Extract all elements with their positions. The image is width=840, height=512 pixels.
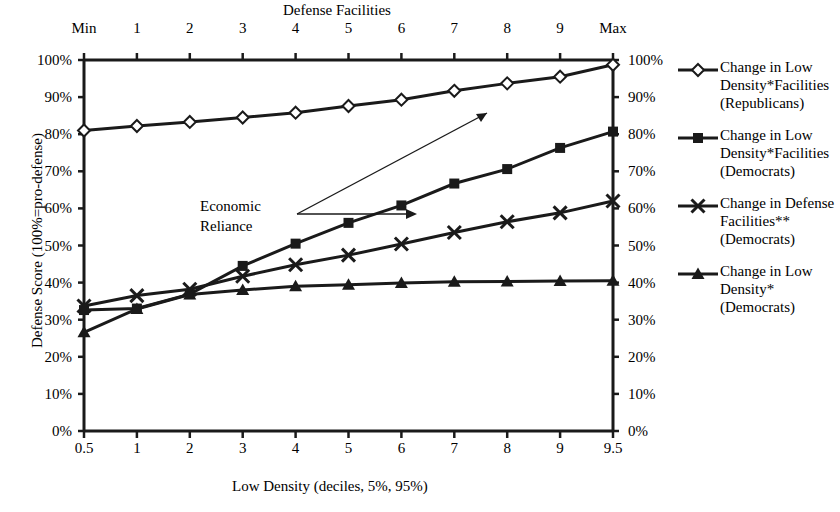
legend-entry-0[interactable]: Change in LowDensity*Facilities(Republic… <box>676 58 840 112</box>
series-3 <box>78 274 620 337</box>
series-2 <box>78 194 620 312</box>
legend-label-3-line1: Change in Low <box>720 262 840 280</box>
legend-label-2: Change in DefenseFacilities**(Democrats) <box>720 194 840 248</box>
legend-label-0-line2: Density*Facilities <box>720 76 840 94</box>
annotation-economic-reliance: Economic Reliance <box>200 196 261 236</box>
legend-label-2-line3: (Democrats) <box>720 230 840 248</box>
legend-marker-square-filled-icon <box>676 130 720 144</box>
series-0 <box>78 59 619 137</box>
legend-marker-x-cross-icon <box>676 198 720 212</box>
legend-label-3-line2: Density* <box>720 280 840 298</box>
legend-entry-2[interactable]: Change in DefenseFacilities**(Democrats) <box>676 194 840 248</box>
legend-label-3-line3: (Democrats) <box>720 298 840 316</box>
legend: Change in LowDensity*Facilities(Republic… <box>676 58 840 330</box>
chart-figure: Defense Facilities Low Density (deciles,… <box>0 0 840 512</box>
legend-label-2-line2: Facilities** <box>720 212 840 230</box>
legend-label-2-line1: Change in Defense <box>720 194 840 212</box>
legend-marker-diamond-open-icon <box>676 62 720 76</box>
legend-marker-triangle-filled-icon <box>676 266 720 280</box>
annotation-line-2: Reliance <box>200 216 261 236</box>
legend-label-1-line1: Change in Low <box>720 126 840 144</box>
legend-label-3: Change in LowDensity*(Democrats) <box>720 262 840 316</box>
legend-label-0: Change in LowDensity*Facilities(Republic… <box>720 58 840 112</box>
legend-label-0-line3: (Republicans) <box>720 94 840 112</box>
legend-label-1-line2: Density*Facilities <box>720 144 840 162</box>
legend-label-1: Change in LowDensity*Facilities(Democrat… <box>720 126 840 180</box>
legend-label-1-line3: (Democrats) <box>720 162 840 180</box>
annotation-line-1: Economic <box>200 196 261 216</box>
annotation-arrows <box>297 113 487 219</box>
legend-entry-1[interactable]: Change in LowDensity*Facilities(Democrat… <box>676 126 840 180</box>
legend-label-0-line1: Change in Low <box>720 58 840 76</box>
legend-entry-3[interactable]: Change in LowDensity*(Democrats) <box>676 262 840 316</box>
